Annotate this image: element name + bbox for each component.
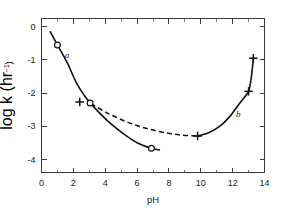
svg-text:log k (hr−1): log k (hr−1) xyxy=(0,61,15,129)
x-tick-label: 4 xyxy=(103,178,108,188)
y-axis-title: log k (hr−1) xyxy=(0,61,15,129)
x-tick-label: 2 xyxy=(71,178,76,188)
y-tick-label: 0 xyxy=(30,22,35,32)
y-tick-label: -2 xyxy=(27,88,35,98)
x-tick-label: 12 xyxy=(228,178,238,188)
circle-marker xyxy=(87,100,93,106)
circle-marker xyxy=(55,42,61,48)
x-tick-label: 14 xyxy=(259,178,269,188)
x-tick-label: 8 xyxy=(166,178,171,188)
y-tick-label: -4 xyxy=(27,155,35,165)
circle-marker xyxy=(149,145,155,151)
x-tick-label: 0 xyxy=(39,178,44,188)
curve-label-a: a xyxy=(65,50,70,60)
y-tick-label: -3 xyxy=(27,121,35,131)
ph-rate-plot: 024681012140-1-2-3-4abpHlog k (hr−1) xyxy=(0,0,286,212)
x-tick-label: 10 xyxy=(196,178,206,188)
x-tick-label: 6 xyxy=(135,178,140,188)
chart-container: 024681012140-1-2-3-4abpHlog k (hr−1) log… xyxy=(0,0,286,212)
curve-b xyxy=(198,58,254,136)
curve-label-b: b xyxy=(236,109,241,119)
x-axis-title: pH xyxy=(147,194,159,205)
y-tick-label: -1 xyxy=(27,55,35,65)
